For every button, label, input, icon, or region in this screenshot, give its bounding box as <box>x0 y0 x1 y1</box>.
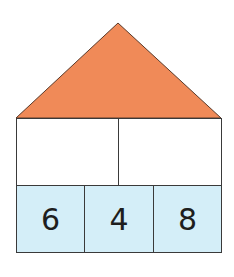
bottom-cell-1: 6 <box>16 185 85 253</box>
bottom-cell-2: 4 <box>84 185 154 253</box>
bottom-cell-3: 8 <box>153 185 222 253</box>
middle-cell-right[interactable] <box>118 118 222 186</box>
bottom-cell-1-value: 6 <box>41 202 60 237</box>
bottom-cell-3-value: 8 <box>178 202 197 237</box>
roof-triangle <box>0 0 234 120</box>
middle-cell-left[interactable] <box>16 118 119 186</box>
bottom-cell-2-value: 4 <box>109 202 128 237</box>
